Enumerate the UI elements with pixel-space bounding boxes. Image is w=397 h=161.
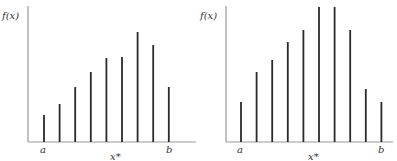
- right-b-label: b: [378, 144, 384, 155]
- right-bars: [241, 7, 381, 142]
- figure: f(x) a x* b f(x) a x* b: [0, 0, 397, 161]
- left-chart: f(x) a x* b: [1, 6, 196, 161]
- left-a-label: a: [40, 144, 46, 155]
- right-a-label: a: [237, 144, 243, 155]
- left-xstar-label: x*: [110, 151, 121, 161]
- right-xstar-label: x*: [308, 151, 319, 161]
- left-bars: [44, 32, 169, 142]
- right-ylabel: f(x): [199, 10, 217, 21]
- left-b-label: b: [166, 144, 172, 155]
- right-chart: f(x) a x* b: [199, 6, 393, 161]
- left-ylabel: f(x): [1, 10, 19, 21]
